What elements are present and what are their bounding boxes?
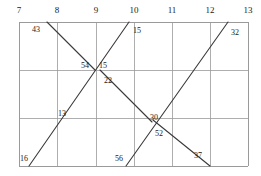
label-43: 43 xyxy=(32,26,40,34)
segment-56-32 xyxy=(126,22,228,166)
label-15-mid: 15 xyxy=(99,62,107,70)
axis-tick-label-7: 7 xyxy=(17,6,22,15)
label-22: 22 xyxy=(104,77,112,85)
label-16: 16 xyxy=(20,155,28,163)
label-54: 54 xyxy=(81,62,89,70)
label-13: 13 xyxy=(58,110,66,118)
label-52: 52 xyxy=(155,130,163,138)
grid-lines xyxy=(19,22,248,166)
segment-lines xyxy=(29,22,228,166)
label-30: 30 xyxy=(150,114,158,122)
label-15-top: 15 xyxy=(133,27,141,35)
label-56: 56 xyxy=(115,155,123,163)
axis-tick-label-13: 13 xyxy=(244,6,253,15)
diagram-canvas: 78910111213 431532541522133052165637 xyxy=(0,0,261,176)
segment-16-15 xyxy=(29,22,129,166)
label-32: 32 xyxy=(231,29,239,37)
label-37: 37 xyxy=(194,152,202,160)
axis-tick-label-12: 12 xyxy=(206,6,215,15)
axis-tick-label-10: 10 xyxy=(130,6,139,15)
axis-tick-label-9: 9 xyxy=(94,6,99,15)
axis-tick-label-11: 11 xyxy=(168,6,177,15)
axis-tick-label-8: 8 xyxy=(55,6,60,15)
